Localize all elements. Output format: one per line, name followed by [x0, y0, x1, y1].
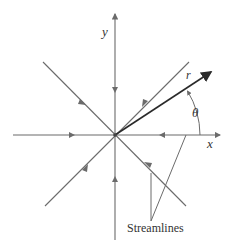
origin-sink-point — [113, 133, 117, 137]
radius-label: r — [186, 68, 191, 83]
y-axis-label: y — [102, 24, 108, 40]
arrow-icon — [159, 132, 165, 138]
x-axis-label: x — [207, 136, 213, 152]
arrow-icon — [112, 87, 118, 93]
arrow-icon — [78, 99, 86, 105]
streamlines-label: Streamlines — [127, 221, 184, 236]
theta-label: θ — [192, 105, 198, 121]
arrow-icon — [112, 176, 118, 182]
streamlines-leader-lines — [151, 135, 186, 221]
radius-vector — [115, 72, 211, 135]
arrow-icon — [69, 132, 75, 138]
sink-flow-diagram — [0, 0, 234, 251]
